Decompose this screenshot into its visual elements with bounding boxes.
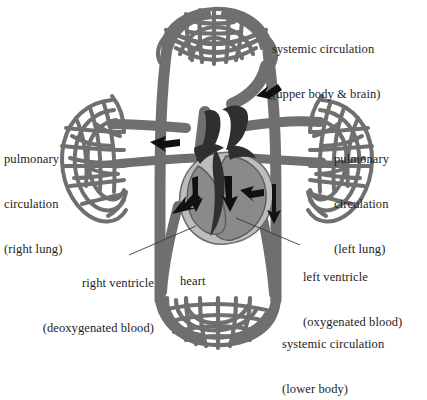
label-right-ventricle: right ventricle (deoxygenated blood) — [2, 246, 154, 351]
label-heart-line1: heart — [180, 274, 205, 289]
label-right-ventricle-line2: (deoxygenated blood) — [2, 321, 154, 336]
label-pulmonary-left-line1: pulmonary — [334, 152, 389, 167]
label-systemic-upper: systemic circulation (upper body & brain… — [272, 12, 381, 117]
label-pulmonary-right-line1: pulmonary — [4, 152, 62, 167]
vessel-pulmonary-vein-left — [250, 158, 322, 162]
label-systemic-lower-line2: (lower body) — [282, 382, 384, 397]
label-systemic-upper-line2: (upper body & brain) — [272, 87, 381, 102]
label-pulmonary-left-line2: circulation — [334, 197, 389, 212]
label-left-ventricle-line1: left ventricle — [303, 270, 402, 285]
label-pulmonary-right-line2: circulation — [4, 197, 62, 212]
label-systemic-upper-line1: systemic circulation — [272, 42, 381, 57]
label-systemic-lower: systemic circulation (lower body) — [282, 307, 384, 400]
label-systemic-lower-line1: systemic circulation — [282, 337, 384, 352]
vessel-pulmonary-vein-right — [116, 158, 192, 164]
label-heart: heart — [180, 244, 205, 304]
label-right-ventricle-line1: right ventricle — [2, 276, 154, 291]
